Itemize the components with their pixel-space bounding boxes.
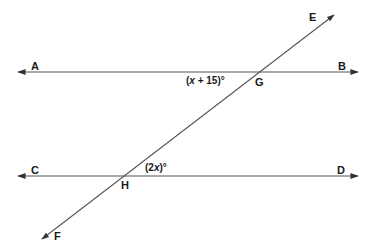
label-h: H: [121, 179, 129, 191]
geometry-diagram: A B C D E F G H (x + 15)° (2x)°: [0, 0, 376, 248]
label-b: B: [338, 60, 346, 72]
label-d: D: [337, 164, 345, 176]
label-f: F: [54, 230, 61, 242]
angle-label-g: (x + 15)°: [186, 75, 225, 86]
label-g: G: [255, 76, 264, 88]
transversal-ef: [42, 15, 334, 239]
angle-label-h: (2x)°: [145, 162, 167, 173]
label-a: A: [31, 60, 39, 72]
label-c: C: [31, 164, 39, 176]
label-e: E: [309, 11, 316, 23]
